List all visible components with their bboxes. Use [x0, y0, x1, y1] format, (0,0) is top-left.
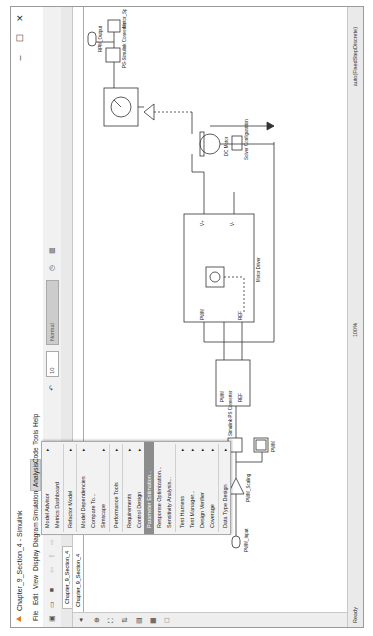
- annotation-icon[interactable]: ▤: [135, 616, 143, 624]
- analysis-menu-item[interactable]: Simscape▸: [98, 442, 108, 534]
- analysis-menu-item[interactable]: Response Optimization...: [154, 442, 164, 534]
- open-icon[interactable]: ▭: [46, 599, 57, 609]
- status-zoom: 100%: [352, 323, 358, 337]
- block-label-pwm-scope: PWM: [271, 441, 276, 452]
- block-label-ps-converter: PS-Simulink Converter: [122, 22, 127, 68]
- analysis-menu-item[interactable]: Model Advisor▸: [42, 442, 52, 534]
- analysis-menu-item[interactable]: Model Dependencies▸: [78, 442, 88, 534]
- maximize-button[interactable]: ☐: [13, 31, 27, 45]
- analysis-menu-item[interactable]: Requirements▸: [124, 442, 134, 534]
- sim-mode-select[interactable]: Normal: [46, 280, 59, 345]
- fit-view-icon[interactable]: ⛶: [107, 616, 115, 624]
- menu-item-label: Performance Tools: [113, 482, 119, 528]
- new-model-icon[interactable]: ▣: [46, 613, 57, 623]
- analysis-menu-item[interactable]: Data Type Design▸: [220, 442, 230, 534]
- submenu-arrow-icon: ▸: [220, 448, 230, 451]
- menu-tools[interactable]: Tools: [32, 430, 39, 445]
- submenu-arrow-icon: ▸: [65, 448, 75, 451]
- analysis-menu-item[interactable]: Metrics Dashboard: [52, 442, 62, 534]
- status-solver[interactable]: auto(FixedStepDiscrete): [352, 27, 358, 86]
- port-pwm: PWM: [220, 391, 225, 402]
- menu-item-label: Requirements: [126, 494, 132, 528]
- analysis-menu-item[interactable]: Control Design▸: [134, 442, 144, 534]
- step-back-icon[interactable]: ↶: [46, 383, 57, 393]
- image-icon[interactable]: ▦: [149, 616, 157, 624]
- menu-edit[interactable]: Edit: [32, 594, 39, 605]
- block-label-motor-speed: Motor_Speed: [122, 9, 127, 28]
- arrow-icon[interactable]: ⇅: [121, 616, 129, 624]
- menu-item-label: Test Manager...: [189, 490, 195, 528]
- data-inspector-icon[interactable]: ▥: [46, 245, 57, 255]
- submenu-arrow-icon: ▸: [42, 448, 52, 451]
- redo-icon[interactable]: ⇧: [46, 551, 57, 561]
- run-icon[interactable]: ◷: [46, 263, 57, 273]
- analysis-menu-item[interactable]: Performance Tools▸: [111, 442, 121, 534]
- menu-file[interactable]: File: [32, 611, 39, 621]
- menu-separator: [76, 444, 77, 532]
- block-label-converter: Simulink-PS Converter: [228, 390, 233, 436]
- tab-model[interactable]: Chapter_9_Section_4: [62, 546, 72, 609]
- block-label-motor-driver: Motor Driver: [256, 257, 261, 282]
- minimize-button[interactable]: –: [13, 51, 27, 65]
- menu-view[interactable]: View: [32, 575, 39, 589]
- port-ref: REF: [238, 393, 243, 402]
- analysis-menu-item[interactable]: Sensitivity Analysis...: [164, 442, 174, 534]
- analysis-menu-item[interactable]: Design Verifier▸: [197, 442, 207, 534]
- palette: ◂ ⊕ ⛶ ⇅ ▤ ▦ □: [73, 612, 347, 627]
- analysis-menu-item[interactable]: Test Manager...▸: [187, 442, 197, 534]
- menu-separator: [63, 444, 64, 532]
- up-icon[interactable]: ⇨: [46, 537, 57, 547]
- menu-separator: [109, 444, 110, 532]
- menu-item-label: Refactor Model: [67, 491, 73, 528]
- menu-diagram[interactable]: Diagram: [32, 522, 39, 547]
- menu-item-label: Model Dependencies: [80, 476, 86, 528]
- menu-item-label: Simscape: [100, 504, 106, 528]
- menu-item-label: Sensitivity Analysis...: [166, 477, 172, 528]
- undo-icon[interactable]: ⇦: [46, 565, 57, 575]
- menu-item-label: Test Harness: [179, 496, 185, 528]
- window-title: Chapter_9_Section_4 - Simulink: [16, 511, 23, 611]
- driver-port-pwm: PWM: [200, 309, 205, 320]
- menu-separator: [122, 444, 123, 532]
- breadcrumb-label[interactable]: Chapter_9_Section_4: [75, 554, 81, 607]
- close-button[interactable]: ✕: [13, 11, 27, 25]
- submenu-arrow-icon: ▸: [187, 448, 197, 451]
- submenu-arrow-icon: ▸: [111, 448, 121, 451]
- menu-simulation[interactable]: Simulation: [32, 491, 39, 521]
- submenu-arrow-icon: ▸: [197, 448, 207, 451]
- stop-time-input[interactable]: 10: [46, 351, 59, 377]
- block-label-pwm-scaling: PWM_Scaling: [246, 474, 251, 502]
- submenu-arrow-icon: ▸: [124, 448, 134, 451]
- save-icon[interactable]: ■: [46, 585, 57, 595]
- title-bar: Chapter_9_Section_4 - Simulink – ☐ ✕: [11, 7, 29, 627]
- hide-browser-icon[interactable]: ◂: [77, 616, 85, 624]
- analysis-menu-item[interactable]: Compare To...: [88, 442, 98, 534]
- menu-item-label: Data Type Design: [222, 484, 228, 528]
- submenu-arrow-icon: ▸: [207, 448, 217, 451]
- analysis-menu-item[interactable]: Parameter Estimation...: [144, 442, 154, 534]
- menu-item-label: Coverage: [209, 504, 215, 528]
- menu-code[interactable]: Code: [32, 447, 39, 463]
- analysis-menu-item[interactable]: Refactor Model▸: [65, 442, 75, 534]
- block-label-solver: Solver Configuration: [244, 119, 249, 160]
- menu-item-label: Parameter Estimation...: [146, 471, 152, 528]
- driver-port-ref: REF: [238, 311, 243, 320]
- menu-help[interactable]: Help: [32, 414, 39, 427]
- area-icon[interactable]: □: [163, 616, 171, 624]
- menu-separator: [175, 444, 176, 532]
- menu-item-label: Compare To...: [90, 494, 96, 528]
- zoom-icon[interactable]: ⊕: [93, 616, 101, 624]
- menu-display[interactable]: Display: [32, 550, 39, 571]
- submenu-arrow-icon: ▸: [177, 448, 187, 451]
- status-ready: Ready: [352, 607, 358, 623]
- submenu-arrow-icon: ▸: [98, 448, 108, 451]
- menu-item-label: Control Design: [136, 492, 142, 528]
- analysis-menu-item[interactable]: Coverage▸: [207, 442, 217, 534]
- analysis-menu-item[interactable]: Test Harness▸: [177, 442, 187, 534]
- simulink-window-rotated: Chapter_9_Section_4 - Simulink – ☐ ✕ Fil…: [0, 0, 373, 636]
- submenu-arrow-icon: ▸: [78, 448, 88, 451]
- menu-analysis[interactable]: Analysis: [30, 459, 41, 491]
- status-bar: Ready 100% auto(FixedStepDiscrete): [347, 7, 363, 627]
- menu-item-label: Design Verifier: [199, 492, 205, 528]
- submenu-arrow-icon: ▸: [134, 448, 144, 451]
